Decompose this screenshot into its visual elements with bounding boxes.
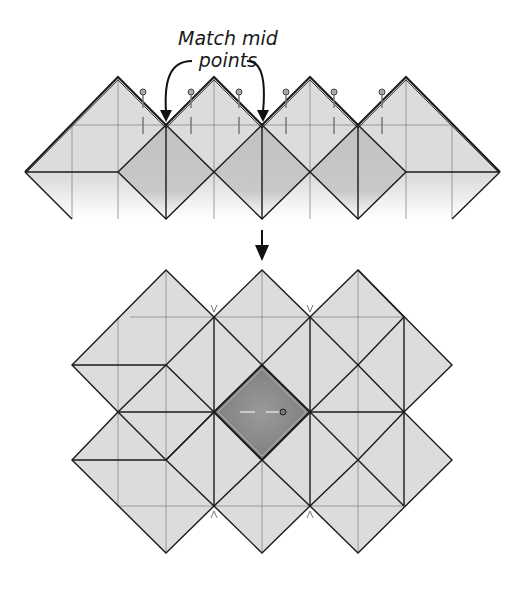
down-arrow-icon (255, 230, 269, 261)
top-step (25, 61, 500, 219)
quilt-diagram (0, 0, 531, 593)
bottom-step (72, 270, 452, 553)
